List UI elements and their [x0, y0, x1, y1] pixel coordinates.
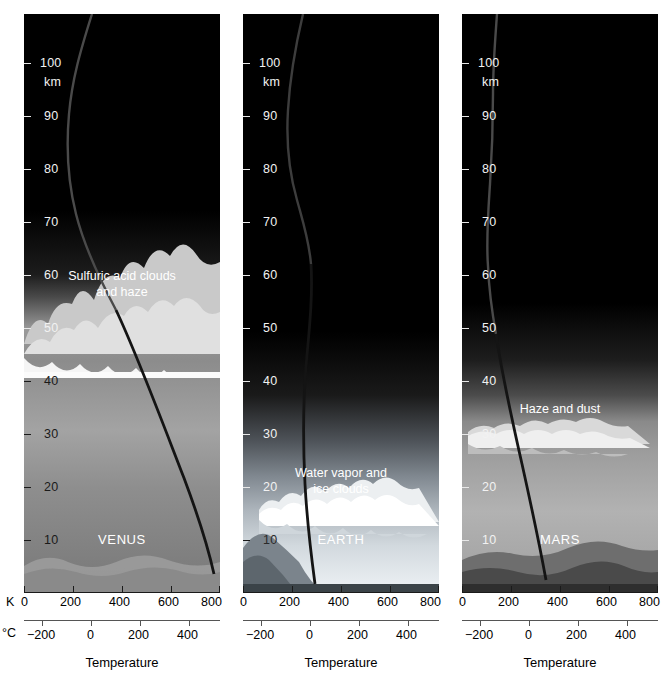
venus-ytick-50 [24, 328, 31, 329]
venus-celsius-unit: °C [2, 626, 16, 640]
mars-ytick-100 [462, 63, 469, 64]
venus-ytick-20 [24, 487, 31, 488]
earth-ytick-20 [243, 487, 250, 488]
venus-cnum-m200: −200 [27, 628, 55, 642]
earth-ktick-200 [292, 586, 293, 592]
venus-ktick-0 [24, 586, 25, 592]
earth-celsius-axis-line [243, 620, 439, 621]
venus-cnum-0: 0 [87, 628, 94, 642]
venus-ktick-400 [122, 586, 123, 592]
mars-ylabel-20: 20 [482, 481, 496, 494]
mars-ylabel-40: 40 [482, 375, 496, 388]
venus-kelvin-axis-line [24, 592, 220, 593]
venus-ytick-70 [24, 222, 31, 223]
earth-ylabel-20: 20 [263, 481, 277, 494]
earth-knum-400: 400 [328, 595, 349, 609]
mars-feature-label: Haze and dust [462, 402, 658, 418]
earth-ylabel-40: 40 [263, 375, 277, 388]
earth-knum-0: 0 [240, 595, 247, 609]
venus-plot-area: Sulfuric acid clouds and haze VENUS [24, 14, 220, 592]
mars-ylabel-90: 90 [482, 110, 496, 123]
mars-knum-800: 800 [639, 595, 660, 609]
venus-ctick-0 [91, 620, 92, 626]
earth-cnum-200: 200 [347, 628, 368, 642]
venus-ytick-90 [24, 116, 31, 117]
venus-cnum-400: 400 [177, 628, 198, 642]
mars-kelvin-axis-line [462, 592, 658, 593]
earth-knum-200: 200 [279, 595, 300, 609]
earth-ylabel-60: 60 [263, 269, 277, 282]
mars-ytick-40 [462, 381, 469, 382]
venus-knum-200: 200 [60, 595, 81, 609]
venus-ytick-80 [24, 169, 31, 170]
mars-ylabel-60: 60 [482, 269, 496, 282]
mars-cnum-200: 200 [566, 628, 587, 642]
earth-ctick-m200 [261, 620, 262, 626]
earth-ctick-200 [359, 620, 360, 626]
mars-ctick-m200 [480, 620, 481, 626]
earth-ylabel-10: 10 [263, 534, 277, 547]
mars-ylabel-100: 100 [478, 57, 499, 70]
earth-feature-label-line2: ice clouds [313, 482, 369, 496]
mars-knum-0: 0 [459, 595, 466, 609]
earth-ylabel-unit: km [263, 76, 280, 89]
earth-cnum-0: 0 [306, 628, 313, 642]
venus-ctick-400 [189, 620, 190, 626]
venus-ytick-40 [24, 381, 31, 382]
venus-ctick-m200 [42, 620, 43, 626]
venus-ylabel-50: 50 [44, 322, 58, 335]
mars-ytick-10 [462, 540, 469, 541]
earth-ylabel-80: 80 [263, 163, 277, 176]
mars-x-axis-title: Temperature [462, 655, 658, 670]
mars-ktick-0 [462, 586, 463, 592]
mars-ktick-400 [560, 586, 561, 592]
venus-ylabel-90: 90 [44, 110, 58, 123]
panel-mars: Haze and dust MARS [462, 14, 658, 592]
mars-ktick-600 [609, 586, 610, 592]
mars-ylabel-80: 80 [482, 163, 496, 176]
earth-ktick-0 [243, 586, 244, 592]
earth-cnum-400: 400 [396, 628, 417, 642]
earth-ytick-70 [243, 222, 250, 223]
earth-x-axis-title: Temperature [243, 655, 439, 670]
mars-ytick-50 [462, 328, 469, 329]
venus-celsius-axis-line [24, 620, 220, 621]
venus-ytick-60 [24, 275, 31, 276]
earth-ytick-80 [243, 169, 250, 170]
venus-ylabel-30: 30 [44, 428, 58, 441]
earth-ktick-600 [390, 586, 391, 592]
earth-ylabel-100: 100 [259, 57, 280, 70]
venus-ylabel-unit: km [44, 76, 61, 89]
venus-x-axis-title: Temperature [24, 655, 220, 670]
venus-feature-label-line1: Sulfuric acid clouds [68, 269, 176, 283]
mars-ytick-30 [462, 434, 469, 435]
mars-ktick-200 [511, 586, 512, 592]
earth-ytick-10 [243, 540, 250, 541]
earth-cnum-m200: −200 [246, 628, 274, 642]
mars-ctick-400 [627, 620, 628, 626]
mars-knum-200: 200 [498, 595, 519, 609]
mars-ytick-60 [462, 275, 469, 276]
earth-ytick-100 [243, 63, 250, 64]
mars-knum-600: 600 [596, 595, 617, 609]
temperature-profile-figure: Sulfuric acid clouds and haze VENUS 100 … [0, 0, 666, 677]
earth-ctick-0 [310, 620, 311, 626]
venus-ylabel-70: 70 [44, 216, 58, 229]
mars-cnum-400: 400 [615, 628, 636, 642]
venus-knum-600: 600 [158, 595, 179, 609]
venus-ylabel-20: 20 [44, 481, 58, 494]
venus-cnum-200: 200 [128, 628, 149, 642]
earth-ylabel-30: 30 [263, 428, 277, 441]
venus-graphic [24, 14, 220, 592]
venus-ctick-200 [140, 620, 141, 626]
mars-ctick-0 [529, 620, 530, 626]
venus-knum-0: 0 [21, 595, 28, 609]
mars-celsius-axis-line [462, 620, 658, 621]
earth-ytick-30 [243, 434, 250, 435]
venus-ytick-10 [24, 540, 31, 541]
earth-knum-800: 800 [420, 595, 441, 609]
earth-ytick-50 [243, 328, 250, 329]
venus-ktick-800 [219, 586, 220, 592]
mars-ylabel-unit: km [482, 76, 499, 89]
mars-ktick-800 [657, 586, 658, 592]
